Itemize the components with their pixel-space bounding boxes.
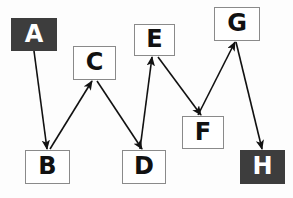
node-b-label: B xyxy=(38,154,56,178)
node-e-label: E xyxy=(146,27,162,51)
node-d-label: D xyxy=(134,154,154,178)
node-b[interactable]: B xyxy=(25,150,70,184)
edge-group xyxy=(34,42,262,149)
node-h[interactable]: H xyxy=(240,150,285,184)
diagram-canvas: A C E G B D F H xyxy=(0,0,293,198)
node-c[interactable]: C xyxy=(73,46,116,80)
edge-a-b xyxy=(34,51,47,149)
node-h-label: H xyxy=(252,154,272,178)
edge-d-e xyxy=(140,57,152,149)
edge-b-c xyxy=(50,81,92,149)
node-g[interactable]: G xyxy=(214,7,260,41)
node-f-label: F xyxy=(195,120,211,144)
node-e[interactable]: E xyxy=(134,24,175,56)
node-a-label: A xyxy=(25,22,44,46)
edge-c-d xyxy=(97,81,142,149)
node-c-label: C xyxy=(86,50,104,74)
node-d[interactable]: D xyxy=(122,150,166,184)
node-f[interactable]: F xyxy=(182,116,224,149)
node-g-label: G xyxy=(227,11,247,35)
edge-f-g xyxy=(198,42,235,115)
node-a[interactable]: A xyxy=(11,18,57,51)
edge-g-h xyxy=(236,42,262,149)
edge-e-f xyxy=(158,57,201,115)
